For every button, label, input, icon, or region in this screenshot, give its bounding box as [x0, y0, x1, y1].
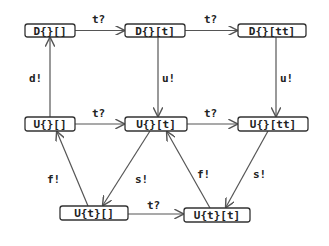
edge-label: f! — [47, 173, 60, 186]
state-diagram: t? t? d! u! u! t? t? f! s! f! s! t? — [0, 0, 329, 246]
edge-u1-u2: t? — [187, 107, 237, 124]
edge-ut0-ut1: t? — [128, 199, 183, 214]
edge-label: t? — [204, 107, 217, 120]
state-node-U-empty: U{}[] — [25, 117, 75, 131]
edge-label: u! — [280, 72, 293, 85]
edge-u0-d0: d! — [29, 38, 50, 117]
node-label: D{}[] — [33, 25, 66, 38]
edge-label: u! — [162, 72, 175, 85]
state-node-Ut-t: U{t}[t] — [184, 208, 250, 222]
node-label: U{}[t] — [136, 118, 176, 131]
edge-label: s! — [253, 168, 266, 181]
edge-d2-u2: u! — [276, 37, 293, 116]
edge-d1-u1: u! — [158, 37, 175, 116]
state-node-Ut-empty: U{t}[] — [60, 206, 128, 220]
node-label: U{}[tt] — [250, 118, 296, 131]
edge-label: f! — [197, 168, 210, 181]
edge-label: t? — [92, 107, 105, 120]
edge-label: s! — [135, 173, 148, 186]
edge-label: d! — [29, 72, 42, 85]
node-label: D{}[t] — [135, 25, 175, 38]
edge-label: t? — [204, 13, 217, 26]
edge-d0-d1: t? — [75, 13, 124, 31]
edge-d1-d2: t? — [185, 13, 237, 31]
edge-u1-ut0: s! — [103, 131, 150, 205]
state-node-D-empty: D{}[] — [25, 24, 75, 38]
state-node-D-tt: D{}[tt] — [238, 24, 306, 38]
edge-label: t? — [92, 13, 105, 26]
node-label: U{}[] — [33, 118, 66, 131]
state-node-D-t: D{}[t] — [125, 24, 185, 38]
state-node-U-tt: U{}[tt] — [238, 117, 308, 131]
state-node-U-t: U{}[t] — [125, 117, 187, 131]
node-label: U{t}[t] — [194, 209, 240, 222]
edge-u2-ut1: s! — [226, 131, 268, 207]
node-label: D{}[tt] — [249, 25, 295, 38]
edge-ut0-u0: f! — [47, 132, 88, 206]
edge-label: t? — [147, 199, 160, 212]
node-label: U{t}[] — [74, 207, 114, 220]
edge-u0-u1: t? — [75, 107, 124, 124]
edge-ut1-u1: f! — [167, 132, 210, 208]
